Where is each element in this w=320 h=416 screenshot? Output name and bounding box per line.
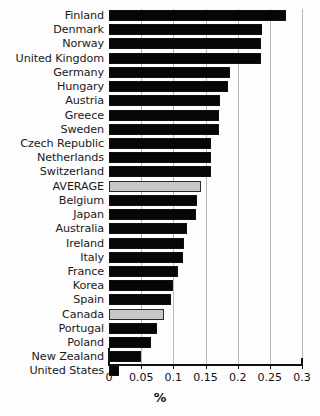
- x-tick-label: 0.2: [229, 371, 247, 384]
- x-tick-label: 0.15: [193, 371, 218, 384]
- x-tick: [238, 364, 239, 369]
- bar: [109, 252, 183, 263]
- bar: [109, 266, 178, 277]
- category-label: Czech Republic: [0, 137, 107, 151]
- bar: [109, 351, 141, 362]
- category-label: Japan: [0, 208, 107, 222]
- bar: [109, 110, 219, 121]
- x-tick: [109, 364, 110, 369]
- category-label: Switzerland: [0, 165, 107, 179]
- category-label: United States: [0, 364, 107, 378]
- category-label: Finland: [0, 9, 107, 23]
- category-label: Austria: [0, 94, 107, 108]
- category-label: United Kingdom: [0, 52, 107, 66]
- bar-row: [109, 23, 302, 37]
- bar: [109, 95, 220, 106]
- bar-row: [109, 208, 302, 222]
- bar: [109, 152, 211, 163]
- bar: [109, 209, 196, 220]
- bar: [109, 24, 262, 35]
- bar-row: [109, 251, 302, 265]
- category-label: Denmark: [0, 23, 107, 37]
- x-tick: [302, 364, 303, 369]
- x-tick-label: 0: [106, 371, 113, 384]
- bar: [109, 166, 211, 177]
- x-tick: [206, 364, 207, 369]
- bar: [109, 309, 164, 320]
- category-label: France: [0, 265, 107, 279]
- bar: [109, 223, 187, 234]
- bar: [109, 337, 151, 348]
- bar-row: [109, 336, 302, 350]
- bar: [109, 67, 230, 78]
- bar: [109, 280, 173, 291]
- x-axis-origin-cap: [108, 348, 110, 365]
- bar: [109, 195, 197, 206]
- bar-row: [109, 322, 302, 336]
- bar-row: [109, 265, 302, 279]
- x-tick-label: 0.05: [129, 371, 154, 384]
- bar: [109, 53, 261, 64]
- bar-row: [109, 109, 302, 123]
- category-label: Spain: [0, 293, 107, 307]
- bar-row: [109, 137, 302, 151]
- x-tick-label: 0.25: [258, 371, 283, 384]
- bar-row: [109, 194, 302, 208]
- bar: [109, 124, 219, 135]
- bar: [109, 81, 228, 92]
- category-label: Hungary: [0, 80, 107, 94]
- bar: [109, 181, 201, 192]
- category-label: New Zealand: [0, 350, 107, 364]
- category-label: Australia: [0, 222, 107, 236]
- bar-row: [109, 222, 302, 236]
- bar-row: [109, 66, 302, 80]
- bar-row: [109, 94, 302, 108]
- bar-row: [109, 123, 302, 137]
- bar-row: [109, 293, 302, 307]
- category-label: Portugal: [0, 322, 107, 336]
- category-label: AVERAGE: [0, 180, 107, 194]
- bar-row: [109, 9, 302, 23]
- category-label: Belgium: [0, 194, 107, 208]
- bar-chart: FinlandDenmarkNorwayUnited KingdomGerman…: [0, 0, 320, 416]
- bar: [109, 10, 286, 21]
- category-label: Netherlands: [0, 151, 107, 165]
- bar: [109, 38, 261, 49]
- x-tick-label: 0.3: [293, 371, 311, 384]
- category-label: Italy: [0, 251, 107, 265]
- bar: [109, 238, 184, 249]
- category-label: Ireland: [0, 237, 107, 251]
- x-tick-label: 0.1: [165, 371, 183, 384]
- bar-row: [109, 165, 302, 179]
- bar: [109, 138, 211, 149]
- bar-row: [109, 151, 302, 165]
- x-tick: [173, 364, 174, 369]
- category-label: Korea: [0, 279, 107, 293]
- bar-row: [109, 350, 302, 364]
- bar-row: [109, 52, 302, 66]
- bar-row: [109, 308, 302, 322]
- category-label: Greece: [0, 109, 107, 123]
- category-label: Norway: [0, 37, 107, 51]
- category-label: Germany: [0, 66, 107, 80]
- bar-row: [109, 279, 302, 293]
- category-label: Sweden: [0, 123, 107, 137]
- bar: [109, 323, 157, 334]
- bar: [109, 294, 171, 305]
- bar-row: [109, 37, 302, 51]
- x-tick: [270, 364, 271, 369]
- bar-row: [109, 180, 302, 194]
- gridline: [302, 9, 303, 364]
- bar-row: [109, 237, 302, 251]
- plot-area: [109, 9, 302, 364]
- category-label: Poland: [0, 336, 107, 350]
- category-axis-labels: FinlandDenmarkNorwayUnited KingdomGerman…: [0, 9, 107, 379]
- x-tick: [141, 364, 142, 369]
- category-label: Canada: [0, 308, 107, 322]
- x-axis-title: %: [0, 390, 320, 405]
- bar-row: [109, 80, 302, 94]
